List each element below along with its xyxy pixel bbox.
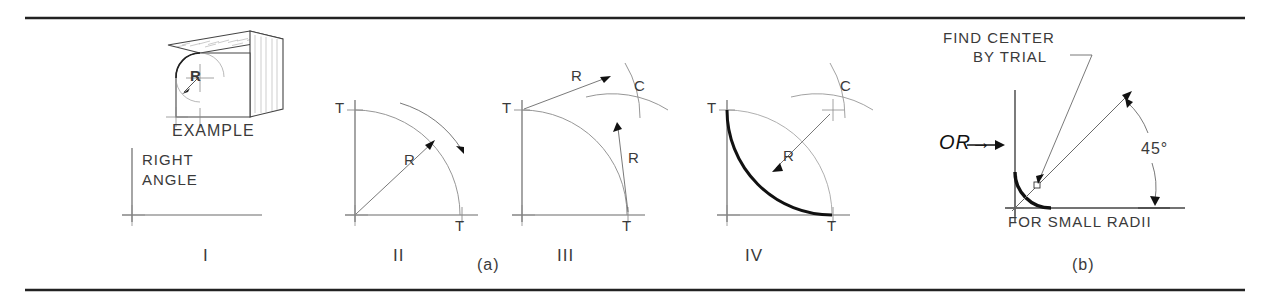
panel-iv-numeral: IV	[745, 246, 763, 265]
part-b-caption: (b)	[1072, 256, 1095, 274]
panel-ii-tangent-label-top: T	[335, 100, 345, 117]
find-center-note-line2: BY TRIAL	[973, 49, 1047, 66]
panel-i-numeral: I	[203, 246, 209, 265]
part-a-caption: (a)	[477, 256, 500, 274]
panel-iv-center-label: C	[840, 78, 852, 95]
panel-iii-numeral: III	[557, 246, 574, 265]
figure-container: R EXAMPLE RIGHT ANGLE I T T R II T T R R…	[0, 0, 1265, 300]
panel-ii-radius-label: R	[404, 152, 416, 169]
small-radii-footnote: FOR SMALL RADII	[1008, 214, 1152, 231]
panel-iii-radius-label-right: R	[628, 150, 640, 167]
panel-iv-tangent-label-top: T	[707, 100, 717, 117]
panel-i-label-line2: ANGLE	[142, 172, 198, 189]
panel-ii-numeral: II	[393, 246, 404, 265]
example-label: EXAMPLE	[172, 122, 255, 140]
panel-iv-tangent-label-right: T	[827, 218, 837, 235]
panel-i-label-line1: RIGHT	[142, 152, 194, 169]
example-block	[166, 31, 283, 128]
panel-iii-radius-label-top: R	[571, 68, 583, 85]
angle-45-label: 45°	[1141, 140, 1168, 158]
panel-iii-center-label: C	[634, 78, 646, 95]
panel-b	[967, 55, 1185, 222]
or-label: OR→	[939, 131, 992, 153]
panel-ii-tangent-label-right: T	[455, 218, 465, 235]
panel-iii-tangent-label-top: T	[502, 100, 512, 117]
find-center-note-line1: FIND CENTER	[943, 30, 1055, 47]
panel-iv-radius-label: R	[783, 148, 795, 165]
example-radius-label: R	[190, 68, 202, 85]
panel-iii-tangent-label-right: T	[622, 218, 632, 235]
